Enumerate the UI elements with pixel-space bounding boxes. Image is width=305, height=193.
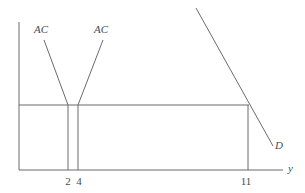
demand-curve	[196, 8, 273, 146]
x-axis-label: y	[288, 163, 293, 174]
average-cost-left-curve	[44, 40, 68, 105]
average-cost-left-label: AC	[34, 24, 48, 35]
demand-curve-label: D	[275, 140, 283, 151]
average-cost-right-curve	[78, 40, 103, 105]
x-tick-label-11: 11	[236, 176, 256, 187]
x-tick-label-4: 4	[69, 176, 89, 187]
average-cost-right-label: AC	[94, 24, 108, 35]
economics-diagram: AC AC D y 2 4 11	[0, 0, 305, 193]
